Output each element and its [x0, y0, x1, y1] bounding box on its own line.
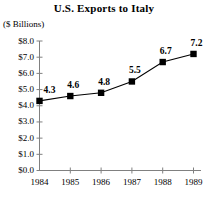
- data-series-line: [40, 54, 194, 101]
- y-axis-tick-label: $3.0: [4, 117, 34, 126]
- data-point-label: 4.6: [62, 80, 84, 90]
- x-axis-tick-label: 1985: [53, 178, 87, 187]
- data-point-marker: [98, 90, 104, 96]
- data-point-label: 6.7: [155, 46, 177, 56]
- data-point-marker: [190, 51, 196, 57]
- x-axis-tick-label: 1988: [146, 178, 180, 187]
- axes: [40, 41, 202, 171]
- data-point-marker: [129, 78, 135, 84]
- data-point-marker: [67, 93, 73, 99]
- y-axis-tick-label: $6.0: [4, 69, 34, 78]
- chart-container: U.S. Exports to Italy ($ Billions) $8.0$…: [0, 0, 208, 197]
- data-point-label: 5.5: [124, 65, 146, 75]
- x-axis-tick-label: 1986: [84, 178, 118, 187]
- y-axis-tick-label: $2.0: [4, 134, 34, 143]
- y-axis-tick-label: $5.0: [4, 85, 34, 94]
- x-axis-tick-label: 1989: [177, 178, 209, 187]
- data-point-markers: [36, 51, 196, 104]
- y-axis-tick-label: $1.0: [4, 150, 34, 159]
- data-point-label: 7.2: [186, 38, 208, 48]
- y-axis-tick-label: $4.0: [4, 101, 34, 110]
- y-axis-tick-label: $0.0: [4, 166, 34, 175]
- data-point-marker: [160, 59, 166, 65]
- data-point-label: 4.8: [93, 77, 115, 87]
- y-axis-tick-label: $7.0: [4, 53, 34, 62]
- data-point-marker: [36, 98, 42, 104]
- x-axis-tick-label: 1984: [23, 178, 57, 187]
- x-axis-tick-label: 1987: [115, 178, 149, 187]
- y-axis-tick-label: $8.0: [4, 37, 34, 46]
- data-point-label: 4.3: [39, 85, 61, 95]
